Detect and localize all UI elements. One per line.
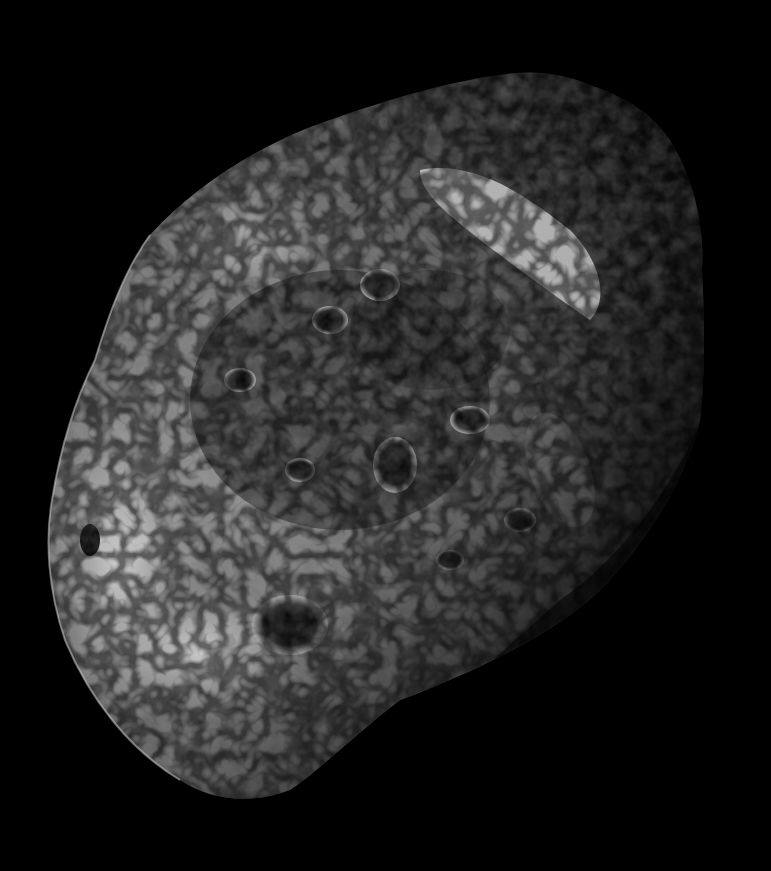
moon-body xyxy=(0,0,771,871)
space-background xyxy=(0,0,771,871)
moon-image xyxy=(0,0,771,871)
